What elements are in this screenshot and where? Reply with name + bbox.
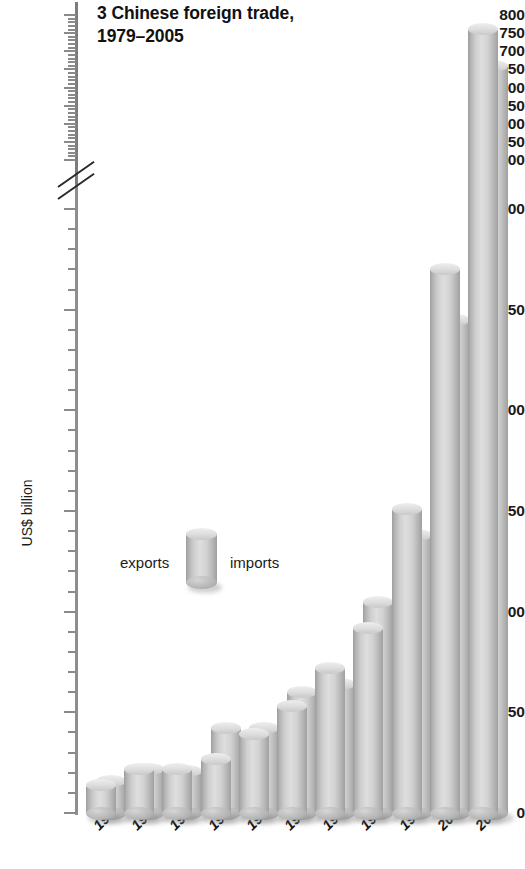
legend-label-imports: imports [230,554,279,571]
bar-exports-1983 [162,769,192,813]
bar-exports-2000 [430,269,460,813]
bar-exports-1987 [239,734,269,813]
bar-exports-1996 [392,509,422,813]
legend-label-exports: exports [120,554,169,571]
bar-exports-1993 [353,628,383,813]
bar-exports-1979 [86,785,116,813]
legend-cylinder-icon [186,534,217,582]
plot-area [0,0,525,869]
bar-exports-2005 [468,29,498,813]
bar-exports-1985 [201,759,231,813]
bar-exports-1991 [315,668,345,813]
bar-exports-1989 [277,706,307,813]
bar-exports-1981 [124,769,154,813]
chart-root: 3 Chinese foreign trade, 1979–2005 US$ b… [0,0,525,869]
